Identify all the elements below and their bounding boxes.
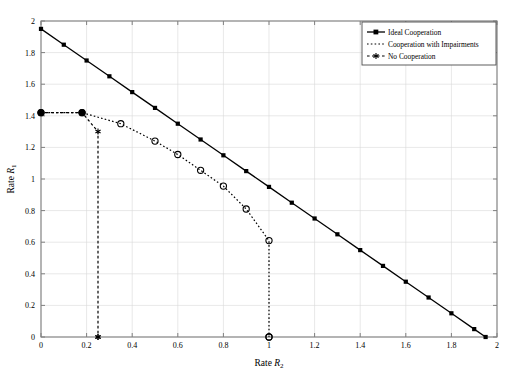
x-tick-label: 0.6 <box>173 341 183 350</box>
legend-label: Ideal Cooperation <box>388 28 441 37</box>
marker-filled-square <box>62 43 66 47</box>
marker-filled-square <box>199 137 203 141</box>
marker-filled-circle <box>79 109 85 115</box>
legend-label: No Cooperation <box>388 52 436 61</box>
x-tick-label: 0.8 <box>218 341 228 350</box>
legend-label: Cooperation with Impairments <box>388 40 479 49</box>
y-tick-label: 1.6 <box>25 80 35 89</box>
marker-filled-square <box>85 58 89 62</box>
x-tick-label: 0 <box>39 341 43 350</box>
marker-filled-square <box>449 311 453 315</box>
chart-figure: 00.20.40.60.811.21.41.61.8200.20.40.60.8… <box>0 0 519 374</box>
y-tick-label: 1 <box>31 175 35 184</box>
x-tick-label: 1 <box>267 341 271 350</box>
y-tick-label: 0.8 <box>25 207 35 216</box>
y-tick-label: 0.4 <box>25 270 35 279</box>
y-tick-label: 0.2 <box>25 301 35 310</box>
marker-filled-square <box>267 185 271 189</box>
marker-filled-square <box>107 74 111 78</box>
marker-filled-square <box>39 27 43 31</box>
marker-filled-square <box>290 201 294 205</box>
y-tick-label: 1.4 <box>25 112 35 121</box>
marker-filled-square <box>427 295 431 299</box>
y-tick-label: 0 <box>31 333 35 342</box>
marker-filled-square <box>130 90 134 94</box>
marker-filled-square <box>358 248 362 252</box>
x-tick-label: 0.2 <box>82 341 92 350</box>
y-tick-label: 0.6 <box>25 238 35 247</box>
marker-filled-square <box>153 106 157 110</box>
legend-marker-filled-square <box>374 30 379 35</box>
marker-filled-square <box>404 280 408 284</box>
x-tick-label: 1.2 <box>310 341 320 350</box>
x-tick-label: 1.4 <box>355 341 365 350</box>
marker-filled-square <box>313 216 317 220</box>
y-tick-label: 1.8 <box>25 49 35 58</box>
y-tick-label: 2 <box>31 17 35 26</box>
marker-filled-circle <box>38 109 44 115</box>
chart-legend[interactable]: Ideal CooperationCooperation with Impair… <box>362 22 496 65</box>
marker-filled-square <box>335 232 339 236</box>
x-tick-label: 1.6 <box>401 341 411 350</box>
plot-canvas: 00.20.40.60.811.21.41.61.8200.20.40.60.8… <box>0 0 519 374</box>
x-tick-label: 0.4 <box>127 341 137 350</box>
y-tick-label: 1.2 <box>25 143 35 152</box>
marker-filled-square <box>176 122 180 126</box>
marker-filled-square <box>221 153 225 157</box>
x-tick-label: 2 <box>495 341 499 350</box>
marker-filled-square <box>244 169 248 173</box>
marker-filled-square <box>381 264 385 268</box>
marker-filled-square <box>472 327 476 331</box>
x-tick-label: 1.8 <box>446 341 456 350</box>
marker-filled-square <box>484 335 488 339</box>
